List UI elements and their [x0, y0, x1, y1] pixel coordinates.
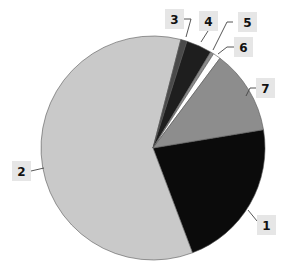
leader-line: [218, 47, 234, 54]
leader-line: [184, 19, 191, 37]
pie-chart: 1234567: [0, 0, 292, 276]
slice-label-4: 4: [199, 11, 218, 42]
slice-label-3: 3: [165, 9, 191, 37]
leader-line: [248, 210, 257, 221]
slice-label-6: 6: [218, 37, 253, 57]
label-text: 3: [170, 13, 178, 27]
label-text: 6: [239, 41, 247, 55]
label-text: 1: [262, 219, 270, 233]
leader-line: [201, 31, 208, 42]
pie-slices: [41, 36, 265, 260]
slice-label-1: 1: [248, 210, 276, 235]
label-text: 4: [204, 15, 212, 29]
slice-label-2: 2: [12, 161, 44, 181]
leader-line: [31, 168, 44, 171]
label-text: 5: [243, 16, 251, 30]
label-text: 2: [17, 165, 25, 179]
label-text: 7: [261, 82, 269, 96]
